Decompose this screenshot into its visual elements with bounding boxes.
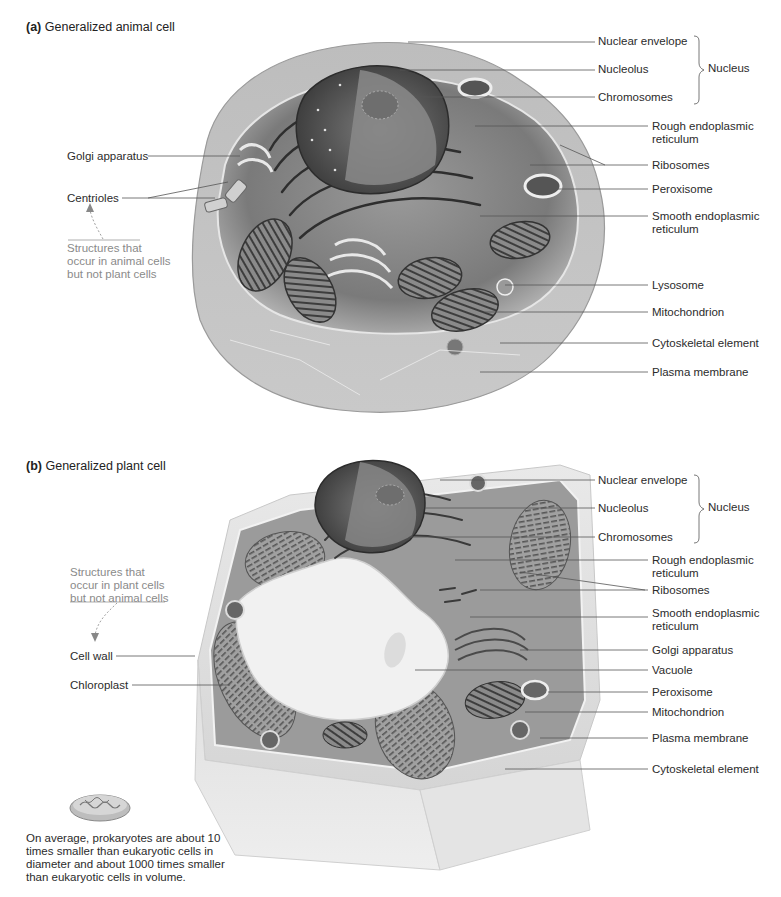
panel-a-title-text: Generalized animal cell xyxy=(45,20,175,34)
label-a-rough-er: Rough endoplasmic reticulum xyxy=(652,120,754,146)
label-b-chloroplast: Chloroplast xyxy=(70,679,128,692)
label-b-cytoskeletal-element: Cytoskeletal element xyxy=(652,763,759,776)
label-b-smooth-er: Smooth endoplasmic reticulum xyxy=(652,607,759,633)
label-a-chromosomes: Chromosomes xyxy=(598,91,673,104)
label-a-golgi-apparatus: Golgi apparatus xyxy=(67,150,148,163)
label-b-peroxisome: Peroxisome xyxy=(652,686,713,699)
label-b-cell-wall: Cell wall xyxy=(70,650,113,663)
label-a-lysosome: Lysosome xyxy=(652,279,704,292)
prokaryote-size-caption: On average, prokaryotes are about 10 tim… xyxy=(26,832,225,884)
label-b-golgi-apparatus: Golgi apparatus xyxy=(652,644,733,657)
label-b-chromosomes: Chromosomes xyxy=(598,531,673,544)
label-b-ribosomes: Ribosomes xyxy=(652,584,710,597)
animal-cell-illustration xyxy=(192,43,604,413)
label-a-centrioles: Centrioles xyxy=(67,192,119,205)
label-b-vacuole: Vacuole xyxy=(652,664,693,677)
label-b-mitochondrion: Mitochondrion xyxy=(652,706,724,719)
label-a-nucleus: Nucleus xyxy=(708,62,750,74)
panel-b-title-text: Generalized plant cell xyxy=(45,459,165,473)
panel-a-title: (a) Generalized animal cell xyxy=(26,20,175,34)
label-a-mitochondrion: Mitochondrion xyxy=(652,306,724,319)
label-b-plasma-membrane: Plasma membrane xyxy=(652,732,749,745)
panel-a-letter: (a) xyxy=(26,20,41,34)
label-a-plasma-membrane: Plasma membrane xyxy=(652,366,749,379)
note-plant-only-structures: Structures that occur in plant cells but… xyxy=(70,566,168,605)
prokaryote-illustration xyxy=(70,795,130,821)
label-b-nuclear-envelope: Nuclear envelope xyxy=(598,474,688,487)
label-a-peroxisome: Peroxisome xyxy=(652,183,713,196)
panel-b-letter: (b) xyxy=(26,459,42,473)
label-b-nucleolus: Nucleolus xyxy=(598,502,649,515)
label-a-nucleolus: Nucleolus xyxy=(598,63,649,76)
label-b-rough-er: Rough endoplasmic reticulum xyxy=(652,554,754,580)
label-a-smooth-er: Smooth endoplasmic reticulum xyxy=(652,210,759,236)
label-a-ribosomes: Ribosomes xyxy=(652,159,710,172)
label-a-cytoskeletal-element: Cytoskeletal element xyxy=(652,337,759,350)
note-animal-only-structures: Structures that occur in animal cells bu… xyxy=(67,242,171,281)
label-b-nucleus: Nucleus xyxy=(708,501,750,513)
plant-cell-illustration xyxy=(195,460,600,870)
panel-b-title: (b) Generalized plant cell xyxy=(26,459,166,473)
label-a-nuclear-envelope: Nuclear envelope xyxy=(598,35,688,48)
